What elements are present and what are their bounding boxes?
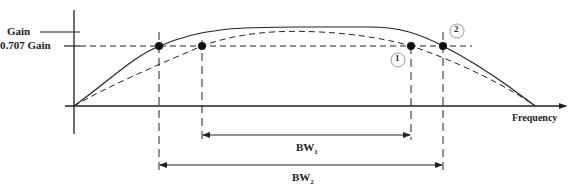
bw1-label: BW1: [296, 141, 318, 156]
bw1-label-main: BW: [296, 141, 314, 153]
marker-2-label: 2: [454, 24, 459, 34]
bw1-right-point: [407, 42, 415, 50]
bw1-label-sub: 1: [314, 148, 318, 156]
bw2-right-point: [439, 42, 447, 50]
marker-1-label: 1: [395, 53, 400, 63]
gain-label: Gain: [7, 25, 30, 37]
solid-response-curve: [74, 27, 535, 106]
bw2-label: BW2: [292, 171, 314, 186]
bw2-left-point: [155, 42, 163, 50]
bw2-label-sub: 2: [310, 178, 314, 186]
diagram-graphics: [0, 0, 571, 188]
bw1-left-point: [198, 42, 206, 50]
gain-707-label: 0.707 Gain: [0, 39, 51, 51]
x-axis-label: Frequency: [512, 112, 557, 123]
bandwidth-diagram: Gain 0.707 Gain Frequency BW1 BW2 1 2: [0, 0, 571, 188]
dashed-response-curve: [74, 31, 535, 106]
bw2-label-main: BW: [292, 171, 310, 183]
